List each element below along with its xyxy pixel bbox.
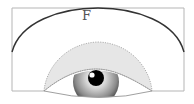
eye-diagram-svg (0, 0, 194, 104)
eye-diagram: F (0, 0, 194, 104)
pupil (88, 70, 104, 86)
eye-highlight (89, 72, 94, 77)
arc-label-f: F (82, 9, 91, 22)
